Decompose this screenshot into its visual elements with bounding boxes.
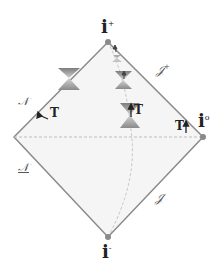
label-scri-minus: 𝒥- [155,192,165,204]
penrose-diagram-canvas [0,0,221,265]
label-t-center: T [134,104,143,116]
label-horizon-upper: 𝒩 [18,96,29,107]
vertex-i-zero [200,134,206,140]
label-i-zero: io [198,112,210,130]
label-t-left: T [50,107,59,119]
label-i-minus: i- [102,243,112,261]
vertex-i-plus [105,39,111,45]
label-t-right: T [175,120,184,132]
label-scri-plus: 𝒥+ [156,64,170,76]
vertex-i-minus [105,234,111,240]
label-i-plus: i+ [101,18,115,36]
label-horizon-lower: 𝒩 [18,162,29,173]
spacetime-diamond [14,42,203,237]
